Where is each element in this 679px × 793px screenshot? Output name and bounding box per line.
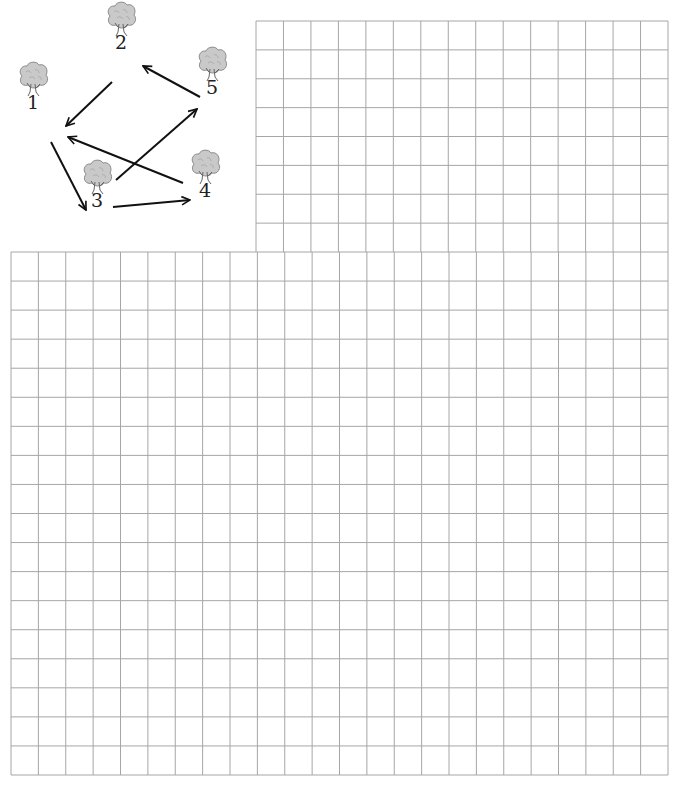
edge-arrow-1-to-3 <box>51 142 86 210</box>
node-label: 4 <box>199 179 211 201</box>
edge-arrow-3-to-4 <box>113 200 190 207</box>
node-label: 1 <box>27 91 39 113</box>
node-5: 5 <box>199 47 226 98</box>
edge-arrow-3-to-5 <box>116 109 197 180</box>
directed-graph: 12345 <box>0 0 260 250</box>
node-label: 3 <box>91 189 103 211</box>
node-3: 3 <box>84 160 111 211</box>
node-2: 2 <box>108 2 135 53</box>
edge-arrow-2-to-1 <box>66 82 112 126</box>
node-label: 2 <box>115 31 127 53</box>
node-1: 1 <box>20 62 47 113</box>
edge-arrow-5-to-2 <box>143 66 200 97</box>
node-label: 5 <box>206 76 218 98</box>
node-4: 4 <box>192 150 219 201</box>
